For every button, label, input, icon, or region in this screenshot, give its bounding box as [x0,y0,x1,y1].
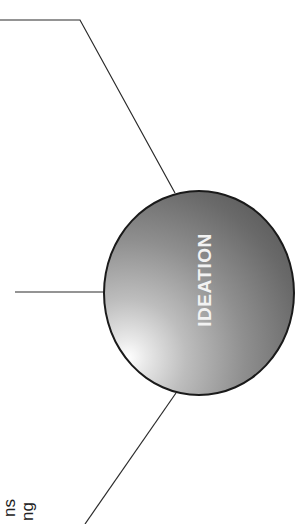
side-label-1: ns [1,499,18,517]
ideation-label: IDEATION [194,233,216,326]
side-label-2: ng [19,502,36,521]
connector-top [0,20,175,193]
connector-bottom [85,393,176,524]
